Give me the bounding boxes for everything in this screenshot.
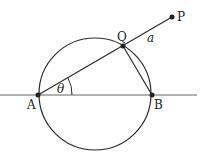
label-Q: Q — [117, 30, 127, 44]
geometry-diagram: A B Q P a θ — [0, 0, 200, 153]
label-theta: θ — [57, 82, 65, 96]
point-Q — [121, 44, 126, 49]
label-A: A — [26, 98, 36, 112]
label-B: B — [154, 98, 163, 112]
point-B — [150, 93, 155, 98]
angle-theta-arc — [68, 78, 72, 95]
circle — [39, 38, 151, 150]
label-P: P — [177, 10, 185, 24]
label-a: a — [147, 31, 154, 45]
point-A — [36, 93, 41, 98]
point-P — [170, 15, 175, 20]
chord-QB — [123, 46, 152, 95]
